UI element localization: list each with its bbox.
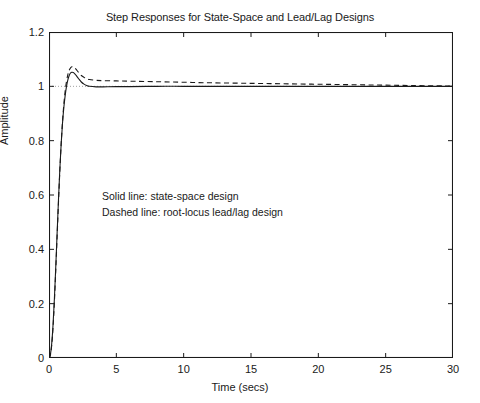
x-tick-label: 0 [46, 363, 52, 375]
annotation-dashed-line: Dashed line: root-locus lead/lag design [102, 206, 283, 218]
x-tick-label: 30 [447, 363, 459, 375]
x-axis-label: Time (secs) [0, 381, 480, 393]
x-axis-tick-labels: 051015202530 [0, 363, 480, 379]
figure-canvas: Step Responses for State-Space and Lead/… [0, 0, 480, 403]
y-tick-label: 1 [38, 80, 44, 92]
x-tick-label: 15 [245, 363, 257, 375]
x-tick-label: 5 [113, 363, 119, 375]
x-tick-label: 10 [178, 363, 190, 375]
x-tick-label: 20 [312, 363, 324, 375]
annotation-solid-line: Solid line: state-space design [102, 190, 239, 202]
y-tick-label: 0.2 [29, 298, 44, 310]
y-tick-label: 0.8 [29, 135, 44, 147]
y-tick-label: 1.2 [29, 26, 44, 38]
y-tick-label: 0.6 [29, 189, 44, 201]
y-axis-tick-labels: 00.20.40.60.811.2 [6, 32, 44, 358]
x-tick-label: 25 [380, 363, 392, 375]
y-tick-label: 0.4 [29, 243, 44, 255]
chart-title: Step Responses for State-Space and Lead/… [0, 11, 480, 23]
